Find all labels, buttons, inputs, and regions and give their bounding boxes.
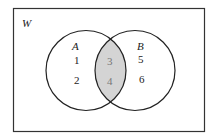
set-a-label: A (71, 40, 79, 52)
set-b-label: B (137, 40, 144, 52)
element-3: 3 (107, 55, 113, 67)
element-5: 5 (138, 53, 144, 65)
element-2: 2 (74, 74, 80, 86)
element-6: 6 (139, 73, 145, 85)
venn-diagram: W A 1 2 3 4 B 5 6 (0, 0, 215, 138)
element-4: 4 (107, 75, 113, 87)
element-1: 1 (74, 54, 80, 66)
universe-label: W (22, 17, 32, 29)
